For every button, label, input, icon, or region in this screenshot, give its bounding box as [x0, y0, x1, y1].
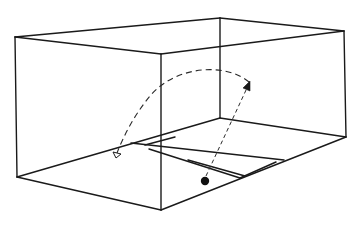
arrowhead-lower-left-icon: [113, 152, 121, 158]
bottom-edge-front-to-right: [161, 137, 346, 210]
floor-court-markings: [131, 137, 284, 178]
vertical-edge-right: [344, 31, 346, 137]
ball-marker: [201, 177, 209, 185]
top-edge-left-to-front: [15, 37, 161, 54]
arc-trajectory-path: [117, 70, 249, 153]
top-edge-front-to-right: [161, 31, 344, 54]
arc-trajectory: [113, 70, 249, 158]
box-vertical-edges: [15, 18, 346, 210]
direct-trajectory-path: [206, 88, 247, 176]
court-box-diagram: [0, 0, 361, 227]
arrowhead-upper-right-icon: [243, 81, 250, 91]
direct-trajectory: [206, 81, 250, 176]
bottom-edge-left-to-back: [17, 118, 220, 177]
receive-line: [188, 160, 245, 176]
top-edge-left-to-back: [15, 18, 220, 37]
top-edge-back-to-right: [220, 18, 344, 31]
vertical-edge-left: [15, 37, 17, 177]
bottom-edge-back-to-right: [220, 118, 346, 137]
short-line: [131, 143, 284, 160]
bottom-edge-left-to-front: [17, 177, 161, 210]
box-bottom-face: [17, 118, 346, 210]
box-top-face: [15, 18, 344, 54]
